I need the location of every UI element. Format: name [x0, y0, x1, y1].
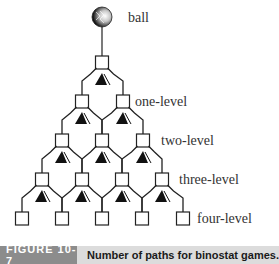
- box-node-icon: [96, 56, 109, 69]
- pin-deflector-icon: [95, 73, 107, 85]
- figure-number: FIGURE 10-7: [0, 246, 77, 264]
- box-node-icon: [137, 134, 150, 147]
- box-node-icon: [36, 173, 49, 186]
- box-node-icon: [76, 173, 89, 186]
- figure-title: Number of paths for binostat games.: [77, 249, 279, 261]
- label-two-level: two-level: [161, 133, 214, 148]
- box-node-icon: [136, 212, 149, 225]
- pin-deflector-icon: [75, 112, 87, 124]
- pin-deflector-icon: [116, 112, 128, 124]
- box-node-icon: [96, 212, 109, 225]
- pin-deflector-icon: [55, 151, 67, 163]
- box-node-icon: [76, 95, 89, 108]
- box-node-icon: [156, 173, 169, 186]
- label-three-level: three-level: [179, 172, 239, 187]
- box-node-icon: [56, 134, 69, 147]
- binostat-diagram: ball one-level two-level three-level fou…: [0, 0, 279, 246]
- pin-deflector-icon: [35, 190, 47, 202]
- pin-deflector-icon: [136, 151, 148, 163]
- box-node-icon: [177, 212, 190, 225]
- pin-deflector-icon: [75, 190, 87, 202]
- label-one-level: one-level: [135, 94, 187, 109]
- box-node-icon: [96, 134, 109, 147]
- pin-deflector-icon: [95, 151, 107, 163]
- box-node-icon: [116, 173, 129, 186]
- box-node-icon: [117, 95, 130, 108]
- label-ball: ball: [128, 10, 149, 25]
- box-node-icon: [16, 212, 29, 225]
- pin-deflector-icon: [155, 190, 167, 202]
- pin-deflector-icon: [115, 190, 127, 202]
- ball-icon: [92, 7, 112, 27]
- figure-caption: FIGURE 10-7 Number of paths for binostat…: [0, 246, 279, 264]
- label-four-level: four-level: [197, 211, 252, 226]
- box-node-icon: [56, 212, 69, 225]
